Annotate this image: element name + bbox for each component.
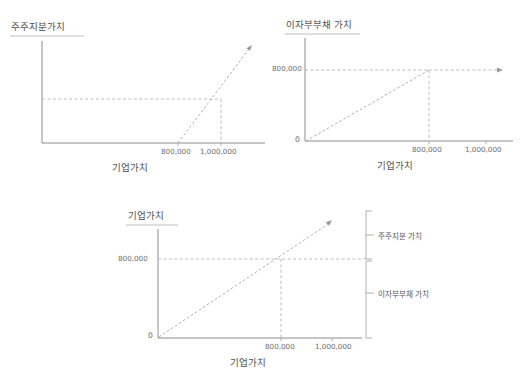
equity-xtick-800k-label: 800,000: [161, 147, 191, 156]
enterprise-x-axis-title: 기업가치: [230, 355, 266, 369]
equity-arrow-head: [246, 45, 252, 51]
equity-bracket: [366, 211, 374, 259]
equity-bracket-label: 주주지분 가치: [378, 230, 422, 241]
enterprise-chart-plot: [100, 195, 529, 383]
enterprise-ytick-zero-label: 0: [148, 331, 153, 340]
debt-ytick-800k-label: 800,000: [272, 64, 302, 73]
figure-canvas: 주주지분가치 800,000 1,000,000 기업가치 이자부부채 가치: [0, 0, 529, 383]
enterprise-arrow-head: [325, 220, 332, 226]
enterprise-y-axis-title: 기업가치: [128, 208, 164, 222]
enterprise-xtick-1000k-label: 1,000,000: [315, 342, 352, 351]
debt-bracket: [366, 261, 374, 338]
debt-arrow-head: [497, 67, 503, 72]
debt-y-axis-title: 이자부부채 가치: [286, 17, 352, 31]
enterprise-ytick-800k-label: 800,000: [118, 254, 148, 263]
debt-xtick-1000k-label: 1,000,000: [465, 145, 502, 154]
equity-payoff-line: [178, 49, 249, 143]
enterprise-value-chart: 기업가치: [100, 195, 529, 383]
debt-ytick-zero-label: 0: [295, 135, 300, 144]
equity-y-axis-title: 주주지분가치: [11, 19, 65, 33]
debt-x-axis-title: 기업가치: [377, 158, 413, 172]
enterprise-xtick-800k-label: 800,000: [265, 342, 295, 351]
enterprise-payoff-line: [159, 224, 328, 337]
equity-x-axis-title: 기업가치: [112, 160, 148, 174]
equity-xtick-1000k-label: 1,000,000: [200, 147, 237, 156]
equity-value-chart: 주주지분가치 800,000 1,000,000 기업가치: [0, 0, 270, 180]
debt-payoff-line: [306, 70, 429, 141]
debt-value-chart: 이자부부채 가치 800,000 0 800,000 1,000,000 기업가…: [270, 0, 529, 180]
debt-xtick-800k-label: 800,000: [412, 145, 442, 154]
debt-bracket-label: 이자부부채 가치: [378, 288, 429, 299]
